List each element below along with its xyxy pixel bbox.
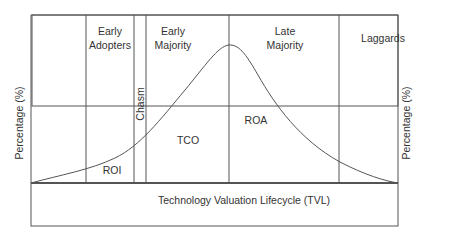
label-late-majority-1: Late (275, 25, 296, 37)
label-roa: ROA (245, 114, 268, 126)
label-late-majority-2: Majority (267, 39, 305, 51)
label-roi: ROI (103, 164, 122, 176)
chart-frame (32, 15, 398, 106)
label-early-majority-2: Majority (155, 39, 193, 51)
label-early-majority-1: Early (161, 25, 186, 37)
label-tco: TCO (177, 134, 199, 146)
label-early-adopters-1: Early (98, 25, 123, 37)
y-axis-label-right: Percentage (%) (400, 87, 412, 160)
label-laggards: Laggards (361, 32, 405, 44)
label-chasm: Chasm (134, 87, 146, 121)
tvl-diagram: Early Adopters Early Majority Late Major… (0, 0, 459, 239)
x-axis-label: Technology Valuation Lifecycle (TVL) (158, 194, 330, 206)
y-axis-label-left: Percentage (%) (13, 87, 25, 160)
label-early-adopters-2: Adopters (89, 39, 131, 51)
